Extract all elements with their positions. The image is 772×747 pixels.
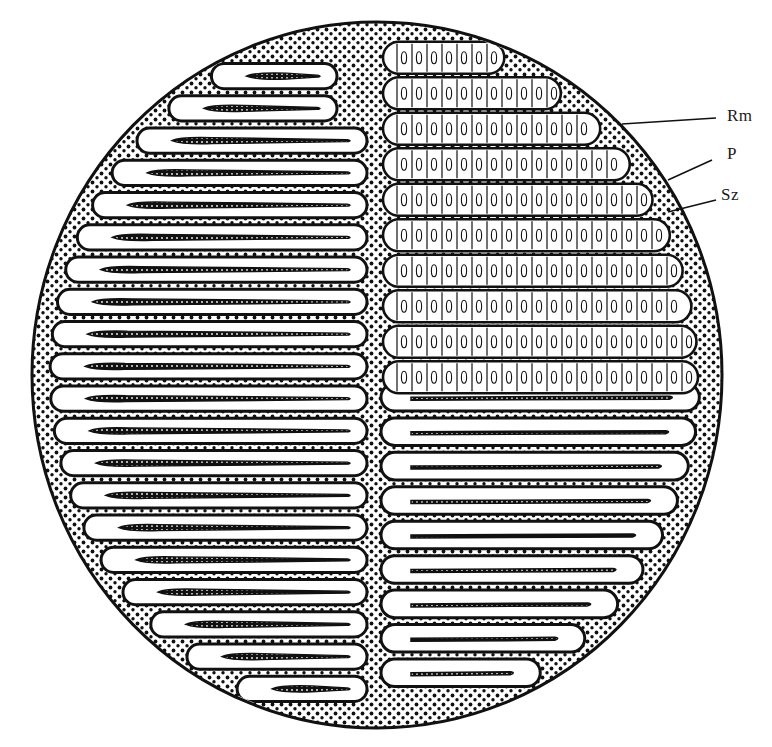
nucleus <box>521 158 526 170</box>
nucleus <box>536 300 541 312</box>
nucleus <box>431 265 436 277</box>
nucleus <box>521 194 526 206</box>
nucleus <box>416 300 421 312</box>
nucleus <box>566 265 571 277</box>
nucleus <box>416 371 421 383</box>
nucleus <box>491 194 496 206</box>
nucleus <box>536 158 541 170</box>
nucleus <box>506 87 511 99</box>
nucleus <box>611 371 616 383</box>
nucleus <box>476 123 481 135</box>
nucleus <box>536 194 541 206</box>
nucleus <box>446 265 451 277</box>
nucleus <box>551 336 556 348</box>
nucleus <box>476 194 481 206</box>
nucleus <box>611 229 616 241</box>
nucleus <box>401 300 406 312</box>
nucleus <box>401 87 406 99</box>
lamella-lumen <box>272 686 350 692</box>
nucleus <box>611 265 616 277</box>
nucleus <box>641 265 646 277</box>
nucleus <box>476 87 481 99</box>
nucleus <box>536 265 541 277</box>
nucleus <box>581 158 586 170</box>
nucleus <box>461 158 466 170</box>
nucleus <box>566 194 571 206</box>
nucleus <box>611 194 616 206</box>
nucleus <box>476 336 481 348</box>
nucleus <box>401 158 406 170</box>
nucleus <box>416 158 421 170</box>
nucleus <box>446 371 451 383</box>
nucleus <box>491 336 496 348</box>
nucleus <box>581 371 586 383</box>
nucleus <box>416 52 421 64</box>
nucleus <box>551 87 556 99</box>
nucleus <box>401 123 406 135</box>
nucleus <box>521 265 526 277</box>
nucleus <box>506 371 511 383</box>
nucleus <box>446 300 451 312</box>
nucleus <box>626 336 631 348</box>
nucleus <box>551 265 556 277</box>
nucleus <box>686 371 691 383</box>
nucleus <box>626 265 631 277</box>
label-sz: Sz <box>721 185 739 205</box>
nucleus <box>581 194 586 206</box>
nucleus <box>626 300 631 312</box>
central-septum <box>369 20 379 730</box>
nucleus <box>581 336 586 348</box>
nucleus <box>566 158 571 170</box>
nucleus <box>446 158 451 170</box>
nucleus <box>476 265 481 277</box>
nucleus <box>596 229 601 241</box>
nucleus <box>431 87 436 99</box>
nucleus <box>551 300 556 312</box>
nucleus <box>491 300 496 312</box>
nucleus <box>506 123 511 135</box>
nucleus <box>446 52 451 64</box>
nucleus <box>416 265 421 277</box>
lamella-lumen <box>411 465 661 469</box>
nucleus <box>491 87 496 99</box>
nucleus <box>461 194 466 206</box>
nucleus <box>461 371 466 383</box>
lamella-lumen <box>411 534 636 538</box>
nucleus <box>611 300 616 312</box>
nucleus <box>401 336 406 348</box>
nucleus <box>521 300 526 312</box>
nucleus <box>506 158 511 170</box>
nucleus <box>416 229 421 241</box>
nucleus <box>641 229 646 241</box>
nucleus <box>581 123 586 135</box>
nucleus <box>476 371 481 383</box>
nucleus <box>551 371 556 383</box>
cell-row <box>383 255 683 287</box>
nucleus <box>476 229 481 241</box>
nucleus <box>641 336 646 348</box>
nucleus <box>416 336 421 348</box>
nucleus <box>416 123 421 135</box>
nucleus <box>491 371 496 383</box>
nucleus <box>461 265 466 277</box>
nucleus <box>461 87 466 99</box>
nucleus <box>521 336 526 348</box>
nucleus <box>476 52 481 64</box>
lamella-lumen <box>246 73 320 79</box>
nucleus <box>566 300 571 312</box>
nucleus <box>611 158 616 170</box>
nucleus <box>611 336 616 348</box>
nucleus <box>401 265 406 277</box>
nucleus <box>641 194 646 206</box>
leader-line-p <box>668 160 712 180</box>
nucleus <box>431 52 436 64</box>
nucleus <box>536 336 541 348</box>
nucleus <box>626 371 631 383</box>
nucleus <box>446 229 451 241</box>
nucleus <box>566 371 571 383</box>
nucleus <box>551 158 556 170</box>
nucleus <box>566 123 571 135</box>
nucleus <box>506 336 511 348</box>
label-p: P <box>727 144 737 164</box>
lamella-lumen <box>411 431 669 435</box>
